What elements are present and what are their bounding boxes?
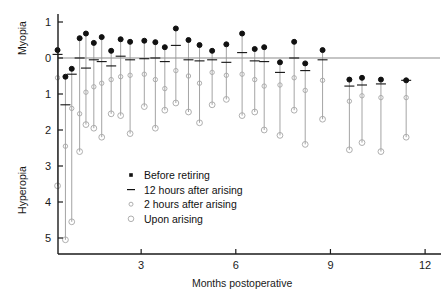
- marker-before-retiring: [99, 35, 104, 40]
- data-column: [289, 39, 299, 113]
- data-column: [60, 74, 70, 242]
- data-column: [344, 77, 354, 153]
- marker-before-retiring: [197, 43, 202, 48]
- ophthalmic-refraction-scatter-chart: 101234536912Months postoperativeMyopiaHy…: [0, 0, 447, 302]
- marker-before-retiring: [153, 40, 158, 45]
- data-column: [357, 75, 367, 145]
- data-column: [250, 47, 260, 115]
- data-column: [318, 48, 328, 123]
- y-tick-label: 2: [45, 124, 51, 136]
- y-axis-title-hyperopia: Hyperopia: [16, 166, 28, 214]
- data-column: [275, 60, 285, 138]
- x-tick-label: 6: [233, 259, 239, 271]
- legend-label: 12 hours after arising: [144, 184, 243, 196]
- y-tick-label: 5: [45, 232, 51, 244]
- x-tick-label: 3: [138, 259, 144, 271]
- data-column: [97, 35, 107, 140]
- marker-before-retiring: [162, 45, 167, 50]
- y-tick-label: 4: [45, 196, 51, 208]
- legend-label: Before retiring: [144, 169, 210, 181]
- data-column: [207, 48, 217, 107]
- marker-before-retiring: [292, 39, 297, 44]
- marker-before-retiring: [277, 60, 282, 65]
- data-column: [150, 40, 160, 131]
- data-column: [75, 36, 85, 155]
- marker-before-retiring: [252, 47, 257, 52]
- x-axis-title: Months postoperative: [192, 277, 293, 289]
- legend-label: 2 hours after arising: [144, 198, 237, 210]
- y-axis-title-myopia: Myopia: [16, 21, 28, 55]
- marker-before-retiring: [128, 39, 133, 44]
- marker-before-retiring: [173, 26, 178, 31]
- data-column: [67, 66, 77, 224]
- x-tick-label: 9: [327, 259, 333, 271]
- marker-before-retiring: [91, 40, 96, 45]
- marker-before-retiring: [210, 48, 215, 53]
- data-column: [183, 38, 193, 115]
- marker-before-retiring: [224, 42, 229, 47]
- data-column: [195, 43, 205, 126]
- legend-marker-filled-dot-icon: [129, 173, 133, 177]
- marker-before-retiring: [77, 36, 82, 41]
- legend-label: Upon arising: [144, 213, 203, 225]
- y-tick-label: 0: [45, 52, 51, 64]
- legend-marker-circle-icon: [128, 216, 134, 222]
- data-column: [89, 40, 99, 131]
- y-tick-label: 3: [45, 160, 51, 172]
- data-column: [300, 61, 310, 147]
- y-tick-label: 1: [45, 88, 51, 100]
- data-column: [125, 39, 135, 136]
- data-column: [221, 42, 231, 102]
- marker-before-retiring: [347, 77, 352, 82]
- data-column: [139, 38, 149, 109]
- marker-before-retiring: [142, 38, 147, 43]
- marker-before-retiring: [69, 66, 74, 71]
- marker-before-retiring: [186, 38, 191, 43]
- marker-before-retiring: [378, 77, 383, 82]
- marker-before-retiring: [360, 75, 365, 80]
- data-column: [237, 31, 247, 118]
- data-column: [171, 26, 181, 106]
- marker-before-retiring: [320, 48, 325, 53]
- marker-before-retiring: [118, 37, 123, 42]
- data-column: [401, 78, 411, 140]
- chart-canvas: 101234536912Months postoperativeMyopiaHy…: [0, 0, 447, 302]
- marker-before-retiring: [240, 31, 245, 36]
- legend-marker-small-circle-icon: [129, 202, 133, 206]
- data-column: [160, 45, 170, 113]
- marker-before-retiring: [109, 48, 114, 53]
- y-tick-label: 1: [45, 16, 51, 28]
- data-column: [106, 48, 116, 116]
- marker-before-retiring: [262, 45, 267, 50]
- data-column: [116, 37, 126, 119]
- x-tick-label: 12: [419, 259, 431, 271]
- marker-before-retiring: [404, 78, 409, 83]
- marker-before-retiring: [63, 74, 68, 79]
- marker-before-retiring: [83, 31, 88, 36]
- marker-before-retiring: [303, 61, 308, 66]
- data-column: [81, 31, 91, 127]
- data-column: [376, 77, 386, 154]
